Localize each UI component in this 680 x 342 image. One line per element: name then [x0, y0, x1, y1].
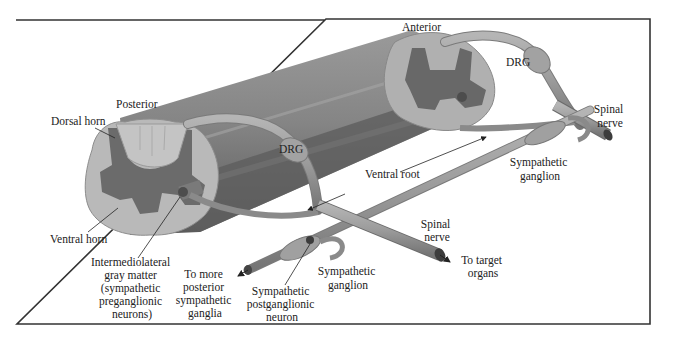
label-drg-right: DRG	[506, 56, 530, 68]
spinal-cord-diagram: Posterior Anterior Dorsal horn Ventral h…	[0, 0, 680, 342]
label-drg-left: DRG	[279, 143, 303, 155]
label-sympathetic-ganglion-right: Sympathetic ganglion	[510, 156, 570, 183]
intermediolateral-neuron-posterior	[178, 187, 188, 197]
label-postganglionic: Sympathetic postganglionic neuron	[247, 285, 318, 323]
postganglionic-neuron-body	[306, 236, 314, 244]
label-to-target: To target organs	[461, 254, 505, 280]
label-sympathetic-ganglion-bottom: Sympathetic ganglion	[318, 265, 378, 292]
label-dorsal-horn: Dorsal horn	[51, 115, 106, 127]
label-spinal-nerve-bottom: Spinal nerve	[421, 218, 453, 243]
label-posterior: Posterior	[116, 98, 158, 110]
label-ventral-root: Ventral root	[365, 168, 420, 180]
anterior-cross-section	[384, 33, 495, 131]
intermediolateral-neuron-anterior	[457, 92, 467, 102]
label-anterior: Anterior	[402, 21, 441, 33]
label-intermediolateral: Intermediolateral gray matter (sympathet…	[91, 256, 173, 321]
label-spinal-nerve-top: Spinal nerve	[594, 103, 626, 129]
sympathetic-ganglion-right-shape	[522, 116, 569, 149]
label-to-more-posterior: To more posterior sympathetic ganglia	[176, 268, 234, 320]
label-ventral-horn: Ventral horn	[50, 233, 107, 245]
